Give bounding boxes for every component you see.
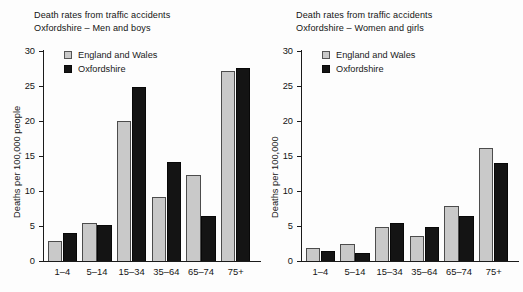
x-axis-tick-label: 1–4 xyxy=(55,266,71,277)
bar xyxy=(355,253,370,261)
bar xyxy=(97,225,112,261)
y-axis-tick-label: 0 xyxy=(9,256,35,266)
bar xyxy=(221,71,236,261)
bar xyxy=(186,175,201,261)
chart-title: Death rates from traffic accidents Oxfor… xyxy=(296,9,519,34)
y-axis-title: Deaths per 100,000 people xyxy=(12,106,22,218)
y-axis-tick-label: 0 xyxy=(267,256,293,266)
y-axis-tick xyxy=(39,86,43,87)
x-axis-tick-label: 75+ xyxy=(228,266,244,277)
bar xyxy=(167,162,182,261)
bar xyxy=(444,206,459,261)
bar xyxy=(236,68,251,261)
x-axis-tick-label: 35–64 xyxy=(153,266,179,277)
bar xyxy=(152,197,167,261)
chart-title-line1: Death rates from traffic accidents xyxy=(34,10,170,20)
plot-area: 051015202530Deaths per 100,000 people1–4… xyxy=(43,51,251,261)
x-axis-tick-label: 35–64 xyxy=(411,266,437,277)
y-axis-line xyxy=(43,50,44,261)
y-axis-tick xyxy=(297,86,301,87)
y-axis-tick-label: 30 xyxy=(9,46,35,56)
x-axis-tick-label: 15–34 xyxy=(377,266,403,277)
y-axis-tick-label: 25 xyxy=(267,81,293,91)
y-axis-tick-label: 25 xyxy=(9,81,35,91)
legend-label-oxfordshire: Oxfordshire xyxy=(336,62,384,76)
chart-panel-women-and-girls: Death rates from traffic accidents Oxfor… xyxy=(262,0,523,292)
y-axis-line xyxy=(301,50,302,261)
y-axis-tick xyxy=(39,191,43,192)
x-axis-tick-label: 65–74 xyxy=(188,266,214,277)
y-axis-tick xyxy=(297,156,301,157)
bar xyxy=(494,163,509,261)
y-axis-tick xyxy=(39,156,43,157)
legend-swatch-icon-england-and-wales xyxy=(322,51,330,59)
legend-item-england-and-wales: England and Wales xyxy=(322,48,415,62)
bar xyxy=(425,227,440,261)
legend-swatch-icon-oxfordshire xyxy=(322,65,330,73)
legend-item-oxfordshire: Oxfordshire xyxy=(322,62,415,76)
y-axis-tick xyxy=(39,226,43,227)
x-axis-tick-label: 75+ xyxy=(486,266,502,277)
x-axis-tick-label: 1–4 xyxy=(313,266,329,277)
y-axis-tick xyxy=(297,51,301,52)
bar xyxy=(306,248,321,261)
legend-item-oxfordshire: Oxfordshire xyxy=(64,62,157,76)
chart-legend: England and Wales Oxfordshire xyxy=(64,48,157,76)
legend-label-oxfordshire: Oxfordshire xyxy=(78,62,126,76)
x-axis-tick-label: 15–34 xyxy=(119,266,145,277)
bar xyxy=(410,236,425,261)
legend-label-england-and-wales: England and Wales xyxy=(336,48,415,62)
bar xyxy=(82,223,97,262)
bar xyxy=(459,216,474,262)
chart-panel-men-and-boys: Death rates from traffic accidents Oxfor… xyxy=(0,0,261,292)
bar xyxy=(390,223,405,262)
legend-swatch-icon-oxfordshire xyxy=(64,65,72,73)
bar xyxy=(63,233,78,261)
y-axis-tick xyxy=(297,226,301,227)
bar xyxy=(479,148,494,261)
y-axis-tick xyxy=(39,261,43,262)
plot-area: 051015202530Deaths per 100,0001–45–1415–… xyxy=(301,51,509,261)
y-axis-tick-label: 5 xyxy=(9,221,35,231)
bar xyxy=(132,87,147,261)
y-axis-tick xyxy=(297,261,301,262)
bar xyxy=(375,227,390,261)
y-axis-tick xyxy=(39,121,43,122)
legend-label-england-and-wales: England and Wales xyxy=(78,48,157,62)
y-axis-tick xyxy=(39,51,43,52)
legend-swatch-icon-england-and-wales xyxy=(64,51,72,59)
chart-title-line2: Oxfordshire – Women and girls xyxy=(296,22,519,35)
y-axis-tick xyxy=(297,191,301,192)
bar xyxy=(117,121,132,261)
y-axis-tick-label: 5 xyxy=(267,221,293,231)
x-axis-line xyxy=(43,261,261,262)
figure-canvas: Death rates from traffic accidents Oxfor… xyxy=(0,0,523,292)
chart-legend: England and Wales Oxfordshire xyxy=(322,48,415,76)
bar xyxy=(48,241,63,261)
y-axis-title: Deaths per 100,000 xyxy=(270,136,280,218)
legend-item-england-and-wales: England and Wales xyxy=(64,48,157,62)
y-axis-tick xyxy=(297,121,301,122)
y-axis-tick-label: 20 xyxy=(267,116,293,126)
x-axis-tick-label: 5–14 xyxy=(87,266,108,277)
bar xyxy=(340,244,355,262)
y-axis-tick-label: 30 xyxy=(267,46,293,56)
chart-title-line1: Death rates from traffic accidents xyxy=(296,10,432,20)
bar xyxy=(321,251,336,262)
chart-title-line2: Oxfordshire – Men and boys xyxy=(34,22,257,35)
x-axis-line xyxy=(301,261,519,262)
chart-title: Death rates from traffic accidents Oxfor… xyxy=(34,9,257,34)
bar xyxy=(201,216,216,262)
x-axis-tick-label: 5–14 xyxy=(345,266,366,277)
x-axis-tick-label: 65–74 xyxy=(446,266,472,277)
